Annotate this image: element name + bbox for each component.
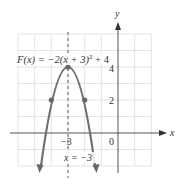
point-right	[82, 97, 87, 102]
x-tick-neg3: −3	[61, 136, 72, 147]
parabola-graph: x y F(x) = −2(x + 3)2 + 4 4 2 −3 0 x = −…	[0, 0, 181, 185]
x-axis-label: x	[169, 127, 175, 138]
function-label: F(x) = −2(x + 3)2 + 4	[16, 53, 110, 66]
y-tick-2: 2	[109, 95, 114, 106]
point-left	[49, 97, 54, 102]
y-tick-4: 4	[109, 63, 114, 74]
left-curve-arrow-icon	[37, 164, 44, 173]
right-curve-arrow-icon	[93, 164, 100, 173]
axis-of-symmetry-label: x = −3	[63, 152, 92, 163]
vertex-point	[65, 64, 70, 69]
y-axis-label: y	[114, 8, 120, 19]
y-axis-arrow-icon	[115, 22, 121, 30]
x-axis-arrow-icon	[159, 130, 167, 136]
x-tick-0: 0	[109, 136, 114, 147]
